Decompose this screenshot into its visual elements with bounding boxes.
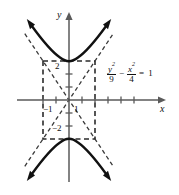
graph-canvas xyxy=(0,0,179,195)
equation-right-denominator: 4 xyxy=(128,75,135,84)
equation-left-num-exp: 2 xyxy=(112,61,115,67)
equation-annotation: y2 9 − x2 4 = 1 xyxy=(107,63,154,84)
equation-right-fraction: x2 4 xyxy=(127,63,136,84)
equation-left-fraction: y2 9 xyxy=(107,63,116,84)
tick-label-y-2: 2 xyxy=(55,62,60,71)
hyperbola-figure: y x 2 −2 −1 1 y2 9 − x2 4 = 1 xyxy=(0,0,179,195)
equation-rhs: 1 xyxy=(147,69,154,78)
axis-label-y: y xyxy=(57,10,61,20)
tick-label-x-1: 1 xyxy=(74,105,79,114)
tick-label-x-minus-1: −1 xyxy=(43,105,53,114)
equation-operator: − xyxy=(118,69,125,78)
equation-right-num-exp: 2 xyxy=(132,61,135,67)
tick-label-y-minus-2: −2 xyxy=(52,124,62,133)
equation-left-denominator: 9 xyxy=(108,75,115,84)
axis-label-x: x xyxy=(160,104,164,114)
equation-equals-sign: = xyxy=(138,69,145,78)
